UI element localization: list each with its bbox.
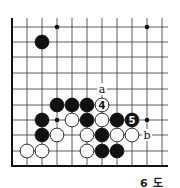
stones: 45 <box>20 35 139 158</box>
white-stone <box>110 128 124 142</box>
star-point-icon <box>55 118 60 123</box>
black-stone <box>95 144 109 158</box>
star-point-icon <box>145 118 150 123</box>
diagram-caption: 6 도 <box>140 174 164 188</box>
white-stone <box>65 113 79 127</box>
move-number-5: 5 <box>129 115 136 126</box>
black-stone <box>35 128 49 142</box>
move-number-4: 4 <box>99 100 106 111</box>
black-stone <box>110 113 124 127</box>
white-stone <box>95 113 109 127</box>
black-stone <box>65 98 79 112</box>
star-point-icon <box>55 25 60 30</box>
white-stone <box>125 128 139 142</box>
black-stone <box>35 113 49 127</box>
black-stone <box>80 98 94 112</box>
point-label-b: b <box>143 129 150 142</box>
white-stone <box>80 128 94 142</box>
point-label-a: a <box>99 83 106 96</box>
white-stone <box>20 144 34 158</box>
black-stone <box>50 98 64 112</box>
star-point-icon <box>145 25 150 30</box>
white-stone <box>50 128 64 142</box>
white-stone <box>80 144 94 158</box>
black-stone <box>80 113 94 127</box>
white-stone <box>35 144 49 158</box>
black-stone <box>95 128 109 142</box>
black-stone <box>110 144 124 158</box>
black-stone <box>35 35 49 49</box>
go-board: 45 ab <box>0 0 180 170</box>
